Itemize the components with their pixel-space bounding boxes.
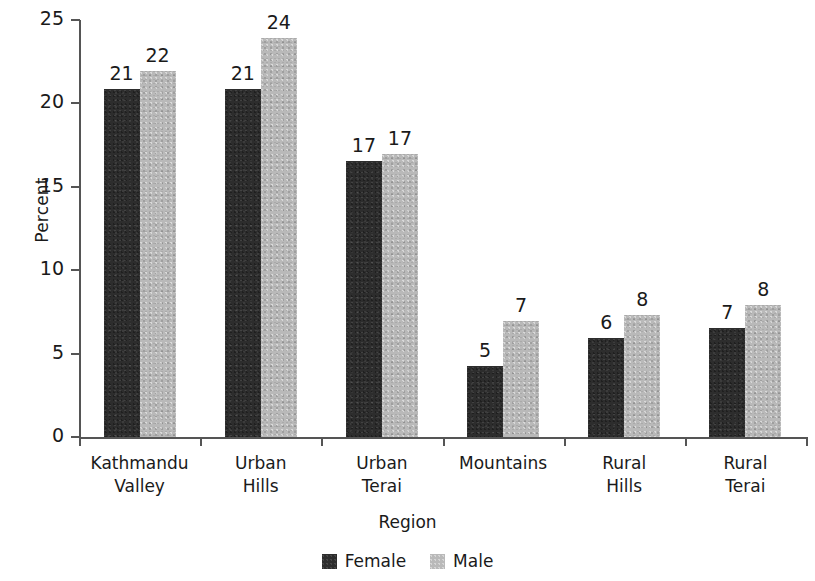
x-axis-tick	[564, 437, 566, 446]
bar-male-5	[745, 305, 781, 438]
bar-value-label: 8	[737, 278, 789, 300]
x-axis-category-label: Rural Hills	[564, 452, 685, 498]
bar-value-label: 7	[495, 294, 547, 316]
bar-male-4	[624, 315, 660, 438]
bar-female-2	[346, 161, 382, 438]
x-axis-category-label: Rural Terai	[685, 452, 806, 498]
bar-chart: Percent 2520151050 212221241717576878 Ka…	[0, 0, 815, 581]
x-axis-tick	[200, 437, 202, 446]
bar-female-5	[709, 328, 745, 438]
x-axis-tick	[321, 437, 323, 446]
y-axis-tick-label: 15	[18, 174, 64, 196]
x-axis-tick	[79, 437, 81, 446]
y-axis-tick-label: 5	[18, 341, 64, 363]
legend-label: Female	[345, 551, 406, 571]
bar-male-0	[140, 71, 176, 438]
bar-value-label: 17	[374, 127, 426, 149]
x-axis-tick	[806, 437, 808, 446]
y-axis-tick-label: 25	[18, 7, 64, 29]
plot-area: 212221241717576878	[79, 20, 806, 438]
bar-value-label: 24	[253, 11, 305, 33]
x-axis-category-label: Kathmandu Valley	[79, 452, 200, 498]
chart-legend: FemaleMale	[0, 551, 815, 571]
x-axis-title: Region	[0, 512, 815, 532]
bar-male-2	[382, 154, 418, 438]
legend-item-female[interactable]: Female	[322, 551, 406, 571]
bar-female-3	[467, 366, 503, 438]
y-axis-tick-label: 10	[18, 257, 64, 279]
y-axis-tick-label: 0	[18, 424, 64, 446]
x-axis-tick	[685, 437, 687, 446]
bar-male-1	[261, 38, 297, 438]
legend-label: Male	[453, 551, 493, 571]
y-axis-tick-label: 20	[18, 90, 64, 112]
x-axis-tick	[443, 437, 445, 446]
x-axis-category-label: Urban Hills	[200, 452, 321, 498]
male-swatch-icon	[430, 554, 445, 569]
x-axis-category-label: Mountains	[443, 452, 564, 475]
female-swatch-icon	[322, 554, 337, 569]
bar-value-label: 22	[132, 44, 184, 66]
bar-female-4	[588, 338, 624, 438]
bar-female-1	[225, 89, 261, 438]
bar-male-3	[503, 321, 539, 438]
bar-value-label: 8	[616, 288, 668, 310]
y-axis-title: Percent	[32, 150, 52, 270]
legend-item-male[interactable]: Male	[430, 551, 493, 571]
bar-female-0	[104, 89, 140, 438]
x-axis-category-label: Urban Terai	[321, 452, 442, 498]
